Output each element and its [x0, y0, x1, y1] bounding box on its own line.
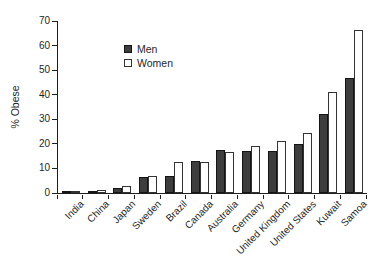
x-label-samoa: Samoa: [330, 199, 362, 209]
x-label-china: China: [78, 199, 104, 209]
bar-men-sweden: [139, 177, 148, 193]
bar-men-india: [62, 191, 71, 193]
bar-group-china: [88, 190, 106, 193]
y-tick-0: [52, 193, 57, 194]
bar-men-germany: [242, 151, 251, 193]
obesity-bar-chart: % Obese Men Women 010203040506070 IndiaC…: [0, 0, 372, 267]
bar-men-canada: [191, 161, 200, 193]
bar-group-australia: [216, 150, 234, 193]
x-tick-8: [263, 195, 264, 199]
bar-men-samoa: [345, 78, 354, 193]
bar-group-canada: [191, 161, 209, 193]
x-tick-10: [314, 195, 315, 199]
x-label-sweden: Sweden: [120, 199, 156, 209]
y-tick-label-10: 10: [24, 163, 50, 173]
bars-container: [58, 21, 367, 193]
x-tick-2: [108, 195, 109, 199]
bar-men-united-states: [294, 144, 303, 193]
bar-group-india: [62, 191, 80, 193]
bar-women-india: [71, 191, 80, 193]
legend-label-women: Women: [137, 58, 173, 69]
y-tick-label-0: 0: [24, 188, 50, 198]
bar-women-brazil: [174, 162, 183, 193]
bar-women-kuwait: [328, 92, 337, 193]
women-swatch-icon: [124, 59, 132, 67]
bar-group-united-states: [294, 133, 312, 193]
bar-women-germany: [251, 146, 260, 193]
legend-item-women: Women: [124, 58, 173, 69]
bar-group-united-kingdom: [268, 141, 286, 193]
bar-women-canada: [200, 162, 209, 193]
x-tick-6: [211, 195, 212, 199]
bar-women-samoa: [354, 30, 363, 193]
bar-men-japan: [113, 188, 122, 193]
x-label-united-states: United States: [251, 199, 311, 209]
y-tick-10: [52, 168, 57, 169]
bar-group-brazil: [165, 162, 183, 193]
y-tick-70: [52, 21, 57, 22]
x-tick-11: [340, 195, 341, 199]
bar-men-kuwait: [319, 114, 328, 193]
y-tick-label-40: 40: [24, 90, 50, 100]
y-tick-label-30: 30: [24, 114, 50, 124]
bar-women-sweden: [148, 176, 157, 193]
bar-men-brazil: [165, 176, 174, 193]
y-axis-title: % Obese: [9, 85, 21, 128]
x-label-india: India: [57, 199, 79, 209]
bar-group-samoa: [345, 30, 363, 193]
x-tick-5: [185, 195, 186, 199]
bar-group-germany: [242, 146, 260, 193]
legend-label-men: Men: [137, 44, 157, 55]
men-swatch-icon: [124, 45, 132, 53]
bar-men-china: [88, 191, 97, 193]
x-tick-1: [82, 195, 83, 199]
y-tick-30: [52, 119, 57, 120]
y-tick-40: [52, 94, 57, 95]
bar-group-sweden: [139, 176, 157, 193]
y-tick-label-60: 60: [24, 41, 50, 51]
x-tick-4: [160, 195, 161, 199]
bar-men-australia: [216, 150, 225, 193]
bar-group-japan: [113, 186, 131, 193]
x-tick-9: [288, 195, 289, 199]
y-tick-label-50: 50: [24, 65, 50, 75]
bar-women-japan: [122, 186, 131, 193]
x-tick-3: [134, 195, 135, 199]
x-tick-0: [57, 195, 58, 199]
y-tick-label-70: 70: [24, 16, 50, 26]
bar-women-united-states: [303, 133, 312, 193]
y-tick-60: [52, 45, 57, 46]
legend: Men Women: [124, 44, 173, 68]
x-tick-7: [237, 195, 238, 199]
legend-item-men: Men: [124, 44, 173, 55]
y-tick-20: [52, 143, 57, 144]
plot-area: Men Women: [57, 21, 367, 194]
x-tick-12: [366, 195, 367, 199]
bar-women-australia: [225, 152, 234, 193]
bar-group-kuwait: [319, 92, 337, 193]
bar-women-china: [97, 190, 106, 193]
y-tick-label-20: 20: [24, 139, 50, 149]
bar-men-united-kingdom: [268, 151, 277, 193]
bar-women-united-kingdom: [277, 141, 286, 193]
y-tick-50: [52, 70, 57, 71]
